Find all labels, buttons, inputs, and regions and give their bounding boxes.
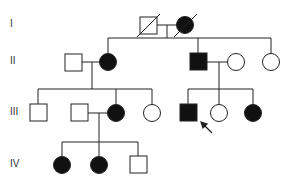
proband-arrow-icon bbox=[201, 122, 212, 133]
individual-III-6-female bbox=[211, 105, 228, 122]
connector-lines bbox=[38, 25, 271, 157]
individual-II-2-female-affected bbox=[100, 54, 117, 71]
individual-IV-3-male bbox=[130, 156, 147, 173]
individual-IV-1-female-affected bbox=[54, 157, 71, 174]
individual-III-3-female-affected bbox=[108, 105, 125, 122]
individual-III-4-female bbox=[144, 105, 161, 122]
individual-III-2-male bbox=[71, 104, 88, 121]
individual-II-4-female bbox=[228, 54, 245, 71]
individual-I-2-female-affected-deceased bbox=[177, 17, 194, 34]
individual-II-1-male bbox=[65, 54, 82, 71]
pedigree-diagram bbox=[0, 0, 287, 182]
individual-II-3-male-affected bbox=[190, 53, 207, 70]
individual-III-7-female-affected bbox=[245, 105, 262, 122]
individual-II-5-female bbox=[263, 54, 280, 71]
individual-III-5-male-affected-proband bbox=[180, 104, 197, 121]
individual-III-1-male bbox=[30, 104, 47, 121]
individual-IV-2-female-affected bbox=[91, 157, 108, 174]
